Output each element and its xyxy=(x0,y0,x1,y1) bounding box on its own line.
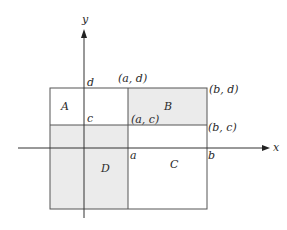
region-label-C: C xyxy=(170,158,179,171)
tick-label-d: d xyxy=(87,76,94,89)
region-label-B: B xyxy=(163,100,172,113)
tick-label-b: b xyxy=(208,149,215,162)
tick-label-a: a xyxy=(130,149,137,162)
y-axis-arrow-icon xyxy=(81,29,87,38)
region-label-A: A xyxy=(60,100,69,113)
x-axis-label: x xyxy=(273,141,280,154)
point-label-a-d: (a, d) xyxy=(118,72,147,85)
point-label-b-d: (b, d) xyxy=(209,83,239,96)
tick-label-c: c xyxy=(87,112,93,125)
region-label-D: D xyxy=(100,162,110,175)
x-axis-arrow-icon xyxy=(262,145,270,151)
point-label-a-c: (a, c) xyxy=(131,113,159,126)
y-axis-label: y xyxy=(81,13,89,26)
region-D-fill xyxy=(50,125,128,209)
point-label-b-c: (b, c) xyxy=(208,121,237,134)
rectangle-partition-diagram: x y d c a b (a, d) (b, d) (a, c) (b, c) … xyxy=(0,0,287,230)
